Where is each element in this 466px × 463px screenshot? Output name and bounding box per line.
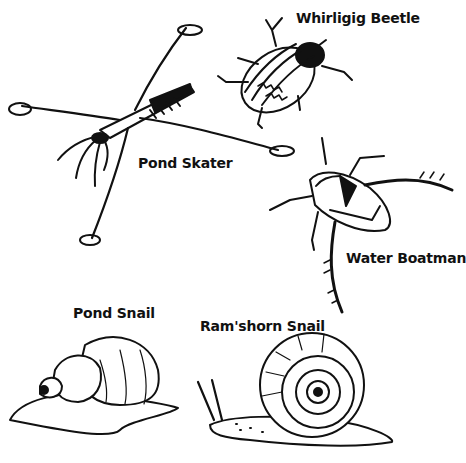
water-boatman-drawing — [270, 138, 452, 312]
whirligig-beetle-label: Whirligig Beetle — [296, 10, 420, 26]
pond-snail-label: Pond Snail — [73, 305, 155, 321]
ramshorn-snail-drawing — [198, 333, 392, 446]
water-boatman-label: Water Boatman — [346, 250, 466, 266]
ramshorn-snail-label: Ram'shorn Snail — [200, 318, 325, 334]
whirligig-beetle-drawing — [218, 18, 352, 128]
pond-skater-label: Pond Skater — [138, 155, 232, 171]
pond-skater-drawing — [9, 25, 294, 245]
pond-snail-drawing — [10, 337, 178, 434]
